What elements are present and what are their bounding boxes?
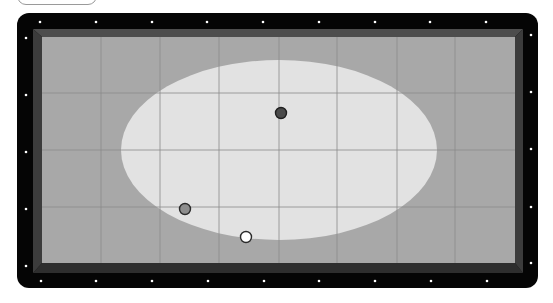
sight-dot-icon: [530, 148, 533, 151]
sight-dot-icon: [429, 21, 432, 24]
cushion-top: [33, 29, 523, 37]
sight-dot-icon: [486, 280, 489, 283]
sight-dot-icon: [530, 206, 533, 209]
sight-dot-icon: [39, 21, 42, 24]
sight-dot-icon: [95, 21, 98, 24]
sight-dot-icon: [263, 280, 266, 283]
sight-dot-icon: [530, 91, 533, 94]
dark-ball[interactable]: [276, 108, 287, 119]
billiards-table[interactable]: [0, 0, 553, 303]
sight-dot-icon: [530, 34, 533, 37]
sight-dot-icon: [374, 21, 377, 24]
sight-dot-icon: [530, 262, 533, 265]
sight-dot-icon: [318, 280, 321, 283]
sight-dot-icon: [151, 280, 154, 283]
sight-dot-icon: [25, 151, 28, 154]
sight-dot-icon: [318, 21, 321, 24]
sight-dot-icon: [25, 94, 28, 97]
sight-dot-icon: [262, 21, 265, 24]
sight-dot-icon: [40, 280, 43, 283]
sight-dot-icon: [207, 280, 210, 283]
sight-dot-icon: [430, 280, 433, 283]
game-stage: [0, 0, 553, 303]
sight-dot-icon: [485, 21, 488, 24]
cushion-right: [515, 29, 523, 273]
sight-dot-icon: [25, 208, 28, 211]
sight-dot-icon: [95, 280, 98, 283]
cue-ball[interactable]: [241, 232, 252, 243]
sight-dot-icon: [206, 21, 209, 24]
sight-dot-icon: [25, 37, 28, 40]
cushion-bottom: [33, 263, 523, 273]
gray-ball[interactable]: [180, 204, 191, 215]
sight-dot-icon: [25, 265, 28, 268]
sight-dot-icon: [374, 280, 377, 283]
cushion-left: [33, 29, 42, 273]
sight-dot-icon: [151, 21, 154, 24]
